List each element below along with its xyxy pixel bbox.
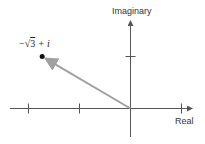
point-label: −√3 + i (19, 38, 50, 49)
complex-plane-diagram: Imaginary Real −√3 + i (0, 0, 205, 144)
complex-vector (46, 59, 131, 109)
point-label-suffix: + i (35, 38, 50, 49)
imaginary-axis-label: Imaginary (112, 6, 152, 16)
real-axis-label: Real (175, 116, 194, 126)
complex-point (40, 54, 45, 59)
